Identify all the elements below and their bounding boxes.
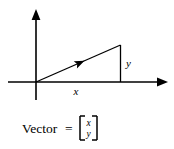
vector-diagram: x y Vector = x y: [0, 0, 174, 149]
caption-equals-sign: =: [65, 121, 73, 136]
figure-container: x y Vector = x y: [0, 0, 174, 149]
matrix-entry-bottom: y: [85, 129, 91, 139]
matrix-entry-top: x: [85, 118, 91, 128]
x-component-label: x: [73, 85, 79, 97]
y-component-label: y: [125, 57, 131, 69]
caption-lead-text: Vector: [22, 121, 58, 136]
